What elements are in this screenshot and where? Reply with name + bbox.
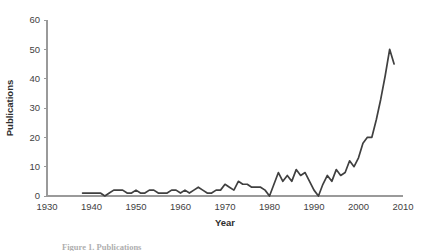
y-tick-label-40: 40 (29, 73, 40, 84)
x-axis-title: Year (215, 217, 235, 228)
x-tick-label-1980: 1980 (259, 201, 280, 212)
y-tick-label-20: 20 (29, 132, 40, 143)
x-axis-tick-labels: 193019401950196019701980199020002010 (36, 201, 413, 212)
y-tick-label-30: 30 (29, 102, 40, 113)
figure-caption-strip: Figure 1. Publications (0, 232, 427, 251)
x-tick-label-1950: 1950 (125, 201, 146, 212)
x-tick-label-1970: 1970 (214, 201, 235, 212)
y-tick-label-60: 60 (29, 14, 40, 25)
y-axis-title: Publications (4, 80, 15, 136)
y-tick-label-0: 0 (35, 190, 40, 201)
x-tick-label-1930: 1930 (36, 201, 57, 212)
publications-line-chart: 0102030405060 19301940195019601970198019… (0, 0, 427, 232)
y-tick-label-10: 10 (29, 161, 40, 172)
figure-caption: Figure 1. Publications (62, 242, 141, 251)
y-tick-label-50: 50 (29, 44, 40, 55)
chart-plot-area: 0102030405060 19301940195019601970198019… (0, 0, 427, 232)
x-tick-label-1960: 1960 (170, 201, 191, 212)
y-axis-tick-labels: 0102030405060 (29, 14, 40, 201)
x-tick-label-2000: 2000 (348, 201, 369, 212)
x-tick-label-1940: 1940 (81, 201, 102, 212)
x-tick-label-1990: 1990 (303, 201, 324, 212)
publications-series-line (83, 49, 395, 196)
figure-container: 0102030405060 19301940195019601970198019… (0, 0, 427, 251)
x-tick-label-2010: 2010 (392, 201, 413, 212)
